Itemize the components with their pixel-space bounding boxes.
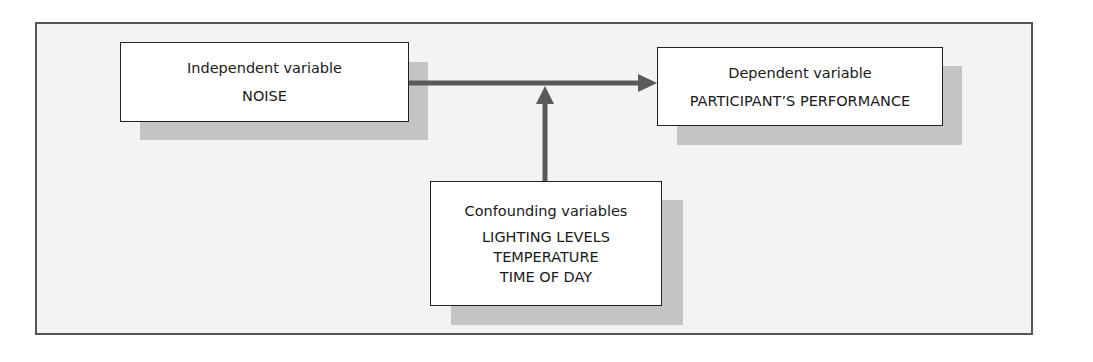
confounding-item-time-of-day: TIME OF DAY bbox=[500, 267, 592, 287]
independent-variable-value: NOISE bbox=[242, 86, 287, 106]
dependent-variable-value: PARTICIPANT’S PERFORMANCE bbox=[690, 91, 911, 111]
dependent-variable-box: Dependent variable PARTICIPANT’S PERFORM… bbox=[657, 47, 943, 126]
independent-variable-box: Independent variable NOISE bbox=[120, 42, 409, 122]
arrow-confounding-to-link bbox=[536, 86, 554, 181]
confounding-variables-box: Confounding variables LIGHTING LEVELS TE… bbox=[430, 181, 662, 306]
independent-variable-title: Independent variable bbox=[187, 58, 342, 78]
dependent-variable-title: Dependent variable bbox=[728, 63, 872, 83]
confounding-item-lighting: LIGHTING LEVELS bbox=[482, 227, 610, 247]
confounding-item-temperature: TEMPERATURE bbox=[493, 247, 598, 267]
arrow-independent-to-dependent bbox=[408, 74, 657, 92]
confounding-variables-title: Confounding variables bbox=[465, 201, 628, 221]
confounding-variables-list: LIGHTING LEVELS TEMPERATURE TIME OF DAY bbox=[482, 227, 610, 287]
